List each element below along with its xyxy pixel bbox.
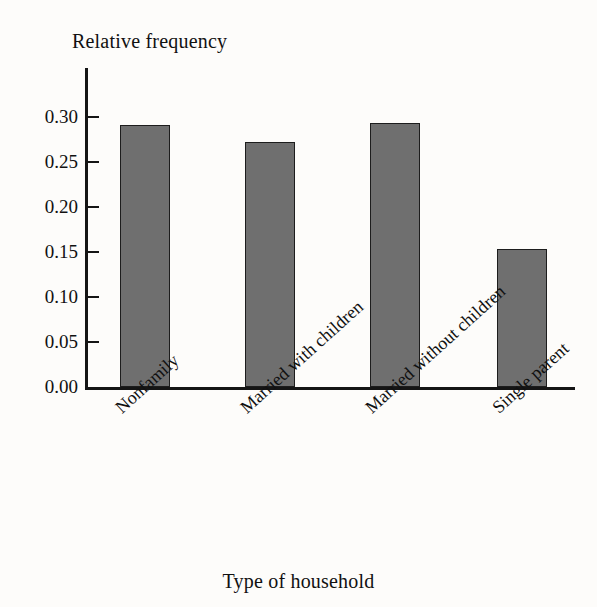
plot-area: 0.300.250.200.150.100.050.00 NonfamilyMa… <box>0 0 597 607</box>
bar-chart-figure: Relative frequency 0.300.250.200.150.100… <box>0 0 597 607</box>
y-axis-tick-mark <box>88 116 99 118</box>
y-axis-tick-label: 0.15 <box>16 242 78 261</box>
bar <box>120 125 170 387</box>
x-axis-title: Type of household <box>0 570 597 593</box>
y-axis-tick-label: 0.10 <box>16 287 78 306</box>
y-axis-tick-label: 0.20 <box>16 197 78 216</box>
y-axis-tick-label: 0.05 <box>16 332 78 351</box>
y-axis-tick-label: 0.25 <box>16 152 78 171</box>
y-axis-tick-label: 0.30 <box>16 107 78 126</box>
y-axis-tick-mark <box>88 341 99 343</box>
y-axis-tick-label: 0.00 <box>16 377 78 396</box>
y-axis-tick-mark <box>88 296 99 298</box>
y-axis-tick-mark <box>88 206 99 208</box>
bar <box>370 123 420 387</box>
y-axis-tick-mark <box>88 251 99 253</box>
y-axis-tick-mark <box>88 161 99 163</box>
bar <box>245 142 295 387</box>
